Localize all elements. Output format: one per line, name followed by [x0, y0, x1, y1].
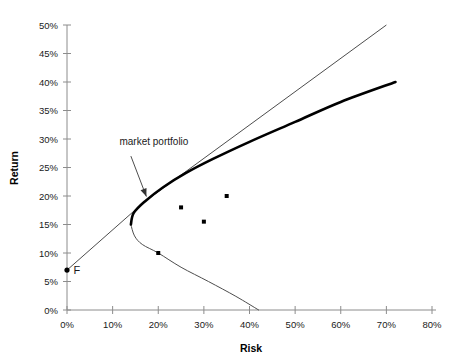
- x-axis-title: Risk: [240, 342, 262, 354]
- inefficient-frontier-curve: [131, 225, 259, 311]
- x-tick-label: 80%: [422, 319, 442, 330]
- x-tick-labels: 0%10%20%30%40%50%60%70%80%: [60, 319, 442, 330]
- asset-data-points: [156, 194, 228, 255]
- x-tick-label: 30%: [194, 319, 214, 330]
- y-tick-label: 5%: [44, 276, 58, 287]
- y-tick-label: 0%: [44, 305, 58, 316]
- market-portfolio-label: market portfolio: [119, 136, 188, 147]
- y-axis-title: Return: [8, 151, 20, 185]
- x-tick-label: 0%: [60, 319, 74, 330]
- y-tick-label: 30%: [39, 134, 59, 145]
- y-tick-label: 15%: [39, 219, 59, 230]
- x-tick-label: 10%: [103, 319, 123, 330]
- x-tick-label: 70%: [377, 319, 397, 330]
- data-point: [202, 220, 206, 224]
- y-tick-label: 50%: [39, 20, 59, 31]
- capital-market-line-chart: 0%5%10%15%20%25%30%35%40%45%50% 0%10%20%…: [0, 0, 461, 362]
- x-tick-label: 50%: [286, 319, 306, 330]
- y-tick-labels: 0%5%10%15%20%25%30%35%40%45%50%: [39, 20, 59, 316]
- efficient-frontier-curve: [131, 82, 396, 225]
- risk-free-marker: [64, 268, 69, 273]
- chart-svg: 0%5%10%15%20%25%30%35%40%45%50% 0%10%20%…: [0, 0, 461, 362]
- market-portfolio-arrowhead: [141, 188, 147, 197]
- y-tick-label: 35%: [39, 105, 59, 116]
- capital-market-line: [67, 25, 386, 270]
- y-tick-label: 25%: [39, 162, 59, 173]
- y-tick-label: 45%: [39, 48, 59, 59]
- x-tick-label: 60%: [331, 319, 351, 330]
- risk-free-point: [64, 268, 69, 273]
- y-tick-label: 40%: [39, 77, 59, 88]
- data-point: [179, 205, 183, 209]
- y-tick-label: 10%: [39, 248, 59, 259]
- y-tick-label: 20%: [39, 191, 59, 202]
- data-point: [156, 251, 160, 255]
- x-tick-label: 40%: [240, 319, 260, 330]
- risk-free-label: F: [73, 264, 80, 276]
- data-point: [225, 194, 229, 198]
- x-tick-label: 20%: [149, 319, 169, 330]
